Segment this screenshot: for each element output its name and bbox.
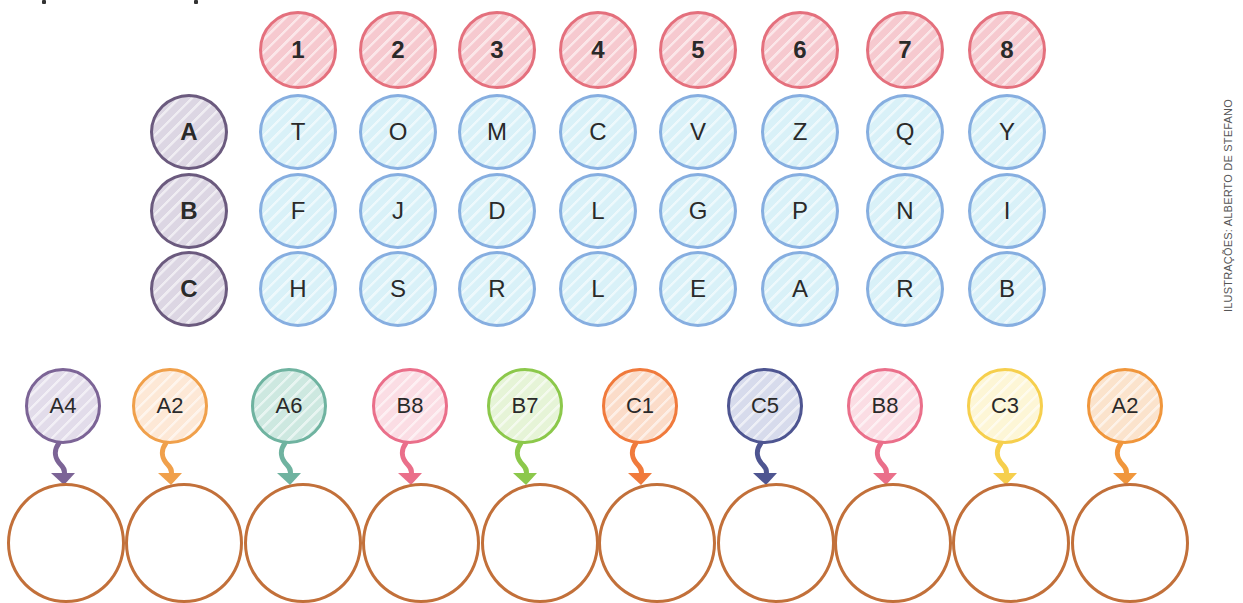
grid-letter: T — [291, 118, 306, 146]
clue-balloon: C3 — [967, 368, 1043, 444]
clue-balloon: B8 — [847, 368, 923, 444]
clue-balloon: A4 — [25, 368, 101, 444]
grid-cell-c4: L — [559, 251, 637, 327]
row-header-a: A — [150, 94, 228, 170]
grid-letter: C — [589, 118, 606, 146]
grid-cell-c3: R — [458, 251, 536, 327]
column-header-8: 8 — [968, 11, 1046, 89]
column-header-label: 1 — [291, 36, 304, 64]
clue-balloon: A2 — [1087, 368, 1163, 444]
column-header-label: 2 — [391, 36, 404, 64]
row-header-label: A — [180, 118, 197, 146]
grid-cell-c2: S — [359, 251, 437, 327]
clue-label: A6 — [276, 393, 303, 419]
answer-slot-10[interactable] — [1071, 483, 1189, 603]
grid-letter: E — [690, 275, 706, 303]
column-header-label: 4 — [591, 36, 604, 64]
column-header-7: 7 — [866, 11, 944, 89]
grid-cell-a2: O — [359, 94, 437, 170]
clue-balloon: A6 — [251, 368, 327, 444]
grid-letter: L — [591, 275, 604, 303]
grid-cell-c5: E — [659, 251, 737, 327]
grid-cell-c1: H — [259, 251, 337, 327]
grid-cell-b6: P — [761, 173, 839, 249]
column-header-label: 8 — [1000, 36, 1013, 64]
answer-slot-9[interactable] — [952, 483, 1070, 603]
grid-letter: B — [999, 275, 1015, 303]
clue-label: B8 — [397, 393, 424, 419]
grid-letter: J — [392, 197, 404, 225]
grid-cell-c7: R — [866, 251, 944, 327]
column-header-label: 5 — [691, 36, 704, 64]
grid-letter: D — [488, 197, 505, 225]
column-header-4: 4 — [559, 11, 637, 89]
grid-letter: Z — [793, 118, 808, 146]
grid-cell-a4: C — [559, 94, 637, 170]
grid-cell-b2: J — [359, 173, 437, 249]
grid-letter: A — [792, 275, 808, 303]
grid-cell-b3: D — [458, 173, 536, 249]
grid-cell-a5: V — [659, 94, 737, 170]
grid-cell-b4: L — [559, 173, 637, 249]
answer-slot-1[interactable] — [7, 483, 125, 603]
answer-slot-4[interactable] — [362, 483, 480, 603]
cropped-text-fragment — [42, 0, 46, 4]
column-header-label: 7 — [898, 36, 911, 64]
grid-letter: R — [896, 275, 913, 303]
cropped-text-fragment — [194, 0, 198, 4]
clue-balloon: B8 — [372, 368, 448, 444]
grid-cell-a6: Z — [761, 94, 839, 170]
clue-label: A2 — [157, 393, 184, 419]
grid-cell-a3: M — [458, 94, 536, 170]
answer-slot-7[interactable] — [717, 483, 835, 603]
column-header-1: 1 — [259, 11, 337, 89]
grid-cell-a8: Y — [968, 94, 1046, 170]
column-header-label: 3 — [490, 36, 503, 64]
grid-letter: I — [1004, 197, 1011, 225]
clue-label: C1 — [626, 393, 654, 419]
grid-cell-c8: B — [968, 251, 1046, 327]
row-header-label: C — [180, 275, 197, 303]
clue-label: B8 — [872, 393, 899, 419]
grid-letter: M — [487, 118, 507, 146]
column-header-3: 3 — [458, 11, 536, 89]
grid-cell-b1: F — [259, 173, 337, 249]
grid-letter: L — [591, 197, 604, 225]
column-header-2: 2 — [359, 11, 437, 89]
clue-balloon: C5 — [727, 368, 803, 444]
row-header-c: C — [150, 251, 228, 327]
grid-letter: G — [689, 197, 708, 225]
clue-label: A2 — [1112, 393, 1139, 419]
answer-slot-2[interactable] — [125, 483, 243, 603]
clue-balloon: B7 — [487, 368, 563, 444]
answer-slot-3[interactable] — [244, 483, 362, 603]
grid-cell-c6: A — [761, 251, 839, 327]
grid-letter: Y — [999, 118, 1015, 146]
clue-label: C5 — [751, 393, 779, 419]
grid-letter: P — [792, 197, 808, 225]
grid-letter: F — [291, 197, 306, 225]
column-header-5: 5 — [659, 11, 737, 89]
grid-letter: V — [690, 118, 706, 146]
column-header-6: 6 — [761, 11, 839, 89]
grid-letter: H — [289, 275, 306, 303]
answer-slot-5[interactable] — [481, 483, 599, 603]
clue-balloon: A2 — [132, 368, 208, 444]
grid-letter: R — [488, 275, 505, 303]
grid-cell-b7: N — [866, 173, 944, 249]
column-header-label: 6 — [793, 36, 806, 64]
row-header-label: B — [180, 197, 197, 225]
grid-cell-a1: T — [259, 94, 337, 170]
clue-label: C3 — [991, 393, 1019, 419]
grid-letter: N — [896, 197, 913, 225]
clue-label: A4 — [50, 393, 77, 419]
row-header-b: B — [150, 173, 228, 249]
clue-label: B7 — [512, 393, 539, 419]
answer-slot-8[interactable] — [834, 483, 952, 603]
answer-slot-6[interactable] — [598, 483, 716, 603]
grid-letter: O — [389, 118, 408, 146]
grid-cell-b5: G — [659, 173, 737, 249]
illustration-credit: ILUSTRAÇÕES: ALBERTO DE STEFANO — [1222, 99, 1234, 312]
grid-letter: S — [390, 275, 406, 303]
grid-letter: Q — [896, 118, 915, 146]
